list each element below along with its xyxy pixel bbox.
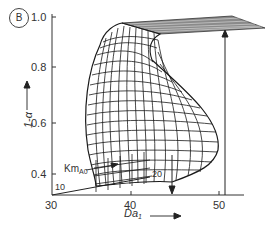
x-tick-30: 30	[45, 200, 57, 211]
y-label-arrow	[24, 81, 30, 110]
figure-diagram: B 1.0 0.8 0.6 0.4 1-α 30 40 50 Da1 KmA0 …	[0, 0, 276, 228]
x-tick-50: 50	[213, 200, 225, 211]
x-axis-label: Da1	[124, 207, 142, 220]
y-axis-label: 1-α	[22, 112, 34, 128]
mesh-surface	[86, 23, 219, 186]
km-value-20: 20	[152, 170, 162, 179]
panel-label: B	[9, 8, 29, 28]
top-plane	[122, 16, 265, 34]
right-vertical-arrow	[222, 30, 228, 195]
y-tick-0-4: 0.4	[31, 169, 46, 180]
y-tick-0-8: 0.8	[31, 62, 46, 73]
x-label-arrow	[150, 213, 181, 219]
surface-plot	[0, 0, 276, 228]
y-tick-1-0: 1.0	[31, 12, 46, 23]
km-label: KmA0	[64, 164, 88, 175]
km-value-10: 10	[55, 183, 65, 192]
